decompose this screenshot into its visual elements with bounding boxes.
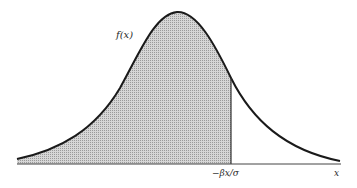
density-plot (0, 0, 357, 188)
x-axis-label: x (334, 168, 339, 178)
cutoff-label: −βx/σ (212, 168, 239, 178)
normal-density-figure: f(x) −βx/σ x (0, 0, 357, 188)
curve-label: f(x) (116, 29, 133, 40)
